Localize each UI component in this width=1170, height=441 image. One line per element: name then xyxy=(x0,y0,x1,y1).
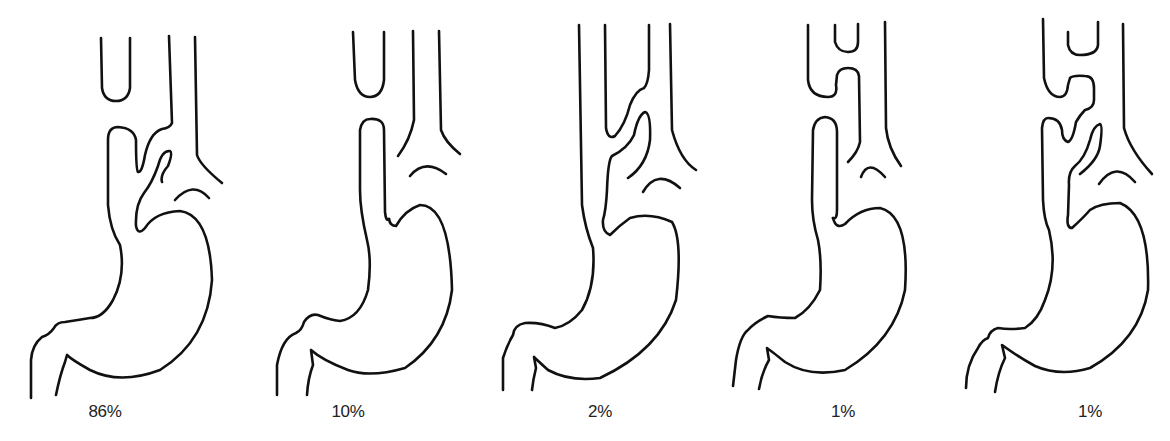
panel-5-drawing xyxy=(966,19,1152,392)
diagram-canvas xyxy=(0,0,1170,441)
percentage-label-5: 1% xyxy=(1078,402,1102,422)
percentage-label-3: 2% xyxy=(588,402,612,422)
percentage-label-2: 10% xyxy=(331,402,364,422)
percentage-label-4: 1% xyxy=(831,402,855,422)
panel-1-drawing xyxy=(31,36,222,398)
panel-4-outline xyxy=(733,22,906,389)
panel-3-drawing xyxy=(503,24,696,390)
panel-2-drawing xyxy=(277,31,460,395)
percentage-label-1: 86% xyxy=(88,402,121,422)
